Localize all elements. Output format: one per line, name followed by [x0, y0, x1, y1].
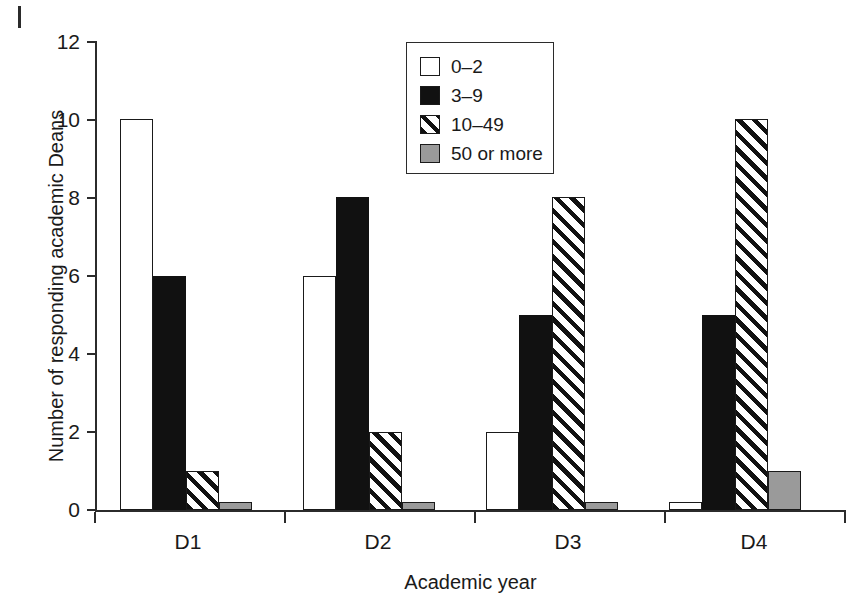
bar-d2-series-2 [336, 197, 369, 510]
x-axis-tick-3 [664, 512, 666, 523]
legend-label-10-49: 10–49 [451, 115, 504, 134]
bar-d3-series-4 [585, 502, 618, 510]
legend-item-10-49: 10–49 [420, 110, 553, 139]
bar-d3-series-2 [519, 315, 552, 510]
bar-d1-series-3 [186, 471, 219, 510]
legend-label-50-or-more: 50 or more [451, 144, 543, 163]
y-axis-tick-label-0: 0 [40, 499, 80, 520]
bar-d4-series-3 [735, 119, 768, 510]
x-axis-title: Academic year [95, 571, 846, 593]
x-axis-tick-label-d2: D2 [318, 530, 438, 554]
bar-d3-series-3 [552, 197, 585, 510]
x-axis-tick-label-d4: D4 [694, 530, 814, 554]
y-axis-tick-10 [87, 119, 95, 121]
y-axis-tick-8 [87, 197, 95, 199]
bar-d1-series-4 [219, 502, 252, 510]
x-axis-tick-1 [284, 512, 286, 523]
bar-d2-series-4 [402, 502, 435, 510]
scan-artifact-mark [18, 6, 21, 28]
y-axis-tick-0 [87, 509, 95, 511]
chart-legend: 0–2 3–9 10–49 50 or more [406, 42, 554, 174]
legend-item-0-2: 0–2 [420, 52, 553, 81]
legend-swatch-solid-icon [420, 86, 440, 105]
y-axis-line [95, 41, 97, 511]
x-axis-tick-label-d1: D1 [128, 530, 248, 554]
bar-d2-series-3 [369, 432, 402, 510]
y-axis-tick-12 [87, 41, 95, 43]
y-axis-tick-4 [87, 353, 95, 355]
legend-label-3-9: 3–9 [451, 86, 483, 105]
legend-item-3-9: 3–9 [420, 81, 553, 110]
bar-d2-series-1 [303, 276, 336, 511]
x-axis-tick-4 [844, 512, 846, 523]
y-axis-tick-label-12: 12 [40, 31, 80, 52]
legend-swatch-gray-icon [420, 144, 440, 163]
bar-chart-figure: 12 10 8 6 4 2 0 D1 D2 D3 D4 Academic yea… [0, 0, 865, 612]
bar-d4-series-4 [768, 471, 801, 510]
bar-d4-series-1 [669, 502, 702, 510]
y-axis-tick-label-0-wrap: 0 [28, 499, 80, 520]
legend-label-0-2: 0–2 [451, 57, 483, 76]
x-axis-tick-2 [474, 512, 476, 523]
legend-item-50-or-more: 50 or more [420, 139, 553, 168]
x-axis-tick-0 [94, 512, 96, 523]
y-axis-tick-label-12-wrap: 12 [28, 31, 80, 52]
legend-swatch-empty-icon [420, 57, 440, 76]
x-axis-line [95, 510, 846, 512]
bar-d1-series-2 [153, 276, 186, 511]
y-axis-title: Number of responding academic Deans [45, 86, 67, 486]
x-axis-tick-label-d3: D3 [508, 530, 628, 554]
y-axis-tick-6 [87, 275, 95, 277]
bar-d1-series-1 [120, 119, 153, 510]
y-axis-tick-2 [87, 431, 95, 433]
bar-d4-series-2 [702, 315, 735, 510]
bar-d3-series-1 [486, 432, 519, 510]
legend-swatch-hatch-icon [420, 115, 440, 134]
